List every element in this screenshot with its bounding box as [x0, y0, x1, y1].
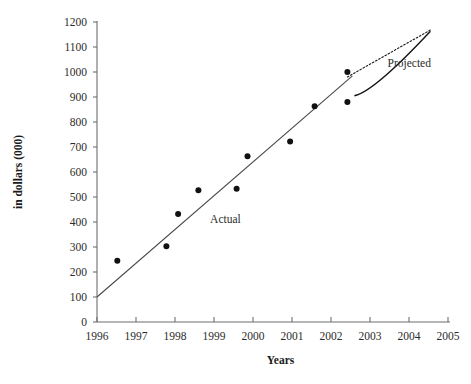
- y-tick-label: 300: [70, 241, 88, 253]
- y-tick-label: 700: [70, 141, 88, 153]
- x-tick-label: 2003: [359, 330, 382, 342]
- x-tick-label: 2005: [437, 330, 460, 342]
- data-point: [245, 153, 251, 159]
- x-tick-label: 2001: [281, 330, 304, 342]
- y-tick-label: 1100: [64, 41, 87, 53]
- y-tick-label: 400: [70, 216, 88, 228]
- x-tick-label: 1999: [203, 330, 226, 342]
- data-point: [344, 99, 350, 105]
- data-point: [287, 139, 293, 145]
- projected-upper-bound-line: [347, 30, 430, 77]
- y-tick-label: 1000: [64, 66, 87, 78]
- x-tick-label: 1996: [86, 330, 109, 342]
- scatter-plot: 0100200300400500600700800900100011001200…: [0, 0, 471, 384]
- x-axis-title: Years: [267, 354, 295, 366]
- y-tick-label: 100: [70, 291, 88, 303]
- y-axis-title: in dollars (000): [12, 135, 25, 209]
- y-tick-label: 600: [70, 166, 88, 178]
- y-tick-label: 500: [70, 191, 88, 203]
- actual-series-label: Actual: [210, 213, 241, 225]
- y-tick-label: 1200: [64, 16, 87, 28]
- x-axis-tick-labels: 1996199719981999200020012002200320042005: [86, 330, 460, 342]
- data-point: [195, 187, 201, 193]
- data-point: [344, 69, 350, 75]
- y-tick-label: 0: [81, 316, 87, 328]
- data-point-group: [114, 69, 350, 264]
- y-axis-tick-marks: [93, 22, 97, 322]
- y-tick-label: 800: [70, 116, 88, 128]
- x-tick-label: 2004: [398, 330, 421, 342]
- data-point: [175, 211, 181, 217]
- x-axis-tick-marks: [97, 317, 448, 322]
- x-tick-label: 2002: [320, 330, 343, 342]
- data-point: [234, 186, 240, 192]
- x-tick-label: 1998: [164, 330, 187, 342]
- data-point: [312, 103, 318, 109]
- x-tick-label: 1997: [125, 330, 148, 342]
- y-axis-tick-labels: 0100200300400500600700800900100011001200: [64, 16, 87, 328]
- x-tick-label: 2000: [242, 330, 265, 342]
- data-point: [163, 243, 169, 249]
- y-tick-label: 200: [70, 266, 88, 278]
- data-point: [114, 258, 120, 264]
- y-tick-label: 900: [70, 91, 88, 103]
- projected-series-label: Projected: [388, 57, 432, 70]
- chart-container: 0100200300400500600700800900100011001200…: [0, 0, 471, 384]
